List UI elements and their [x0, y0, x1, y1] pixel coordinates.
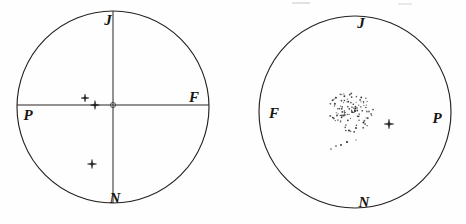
stipple-dot [356, 107, 358, 109]
stipple-dot [341, 108, 343, 110]
stipple-dot [336, 114, 338, 116]
stipple-dot [354, 110, 356, 112]
stipple-dot [335, 97, 337, 99]
right-field-circle: J P N F [259, 15, 451, 210]
stipple-dot [348, 108, 350, 110]
stipple-dot [358, 113, 360, 115]
stipple-dot [350, 118, 351, 119]
stipple-dot [347, 120, 349, 122]
stipple-dot [371, 115, 372, 116]
stipple-dot [353, 131, 355, 133]
stipple-dot [367, 125, 368, 126]
stipple-dot [360, 101, 361, 102]
stipple-dot [347, 101, 349, 103]
stipple-dot [330, 103, 332, 105]
stipple-dot [341, 116, 343, 118]
stipple-dot [366, 104, 367, 105]
stipple-dot [362, 127, 364, 129]
stipple-dot [335, 120, 336, 121]
stipple-dot [338, 113, 339, 114]
stipple-dot [341, 106, 343, 108]
stipple-dot [333, 99, 335, 101]
stipple-dot [347, 99, 349, 101]
star-marker [384, 119, 394, 129]
stipple-dot [337, 119, 339, 121]
stipple-dot [366, 117, 367, 118]
stipple-nebula-cluster [329, 92, 374, 132]
stipple-dot [372, 109, 374, 111]
stipple-dot [366, 107, 367, 108]
stipple-dot [364, 123, 366, 125]
stipple-dot [367, 117, 369, 119]
stipple-dot [348, 130, 350, 132]
stray-dot [335, 145, 337, 147]
stipple-dot [358, 120, 360, 122]
stipple-dot [341, 100, 343, 102]
stipple-dot [356, 102, 357, 103]
scan-artifacts [292, 2, 412, 5]
stipple-dot [334, 105, 336, 107]
stipple-dot [339, 93, 341, 95]
stipple-dot [345, 130, 346, 131]
stipple-dot [358, 105, 359, 106]
left-field-circle: J F N P [17, 11, 209, 206]
stipple-dot [350, 102, 352, 104]
stipple-dot [343, 93, 344, 94]
stray-dot [330, 148, 331, 149]
stipple-dot [349, 114, 350, 115]
stipple-dot [343, 102, 344, 103]
stipple-dot [360, 97, 362, 99]
stipple-dot [341, 114, 343, 116]
stipple-dot [353, 103, 355, 105]
left-label-top: J [103, 12, 112, 28]
right-label-right: P [432, 110, 442, 126]
stipple-dot [345, 124, 346, 125]
stipple-dot [361, 110, 363, 112]
stipple-dot [353, 107, 354, 108]
stipple-dot [363, 101, 364, 102]
stipple-dot [347, 114, 348, 115]
star-marker [81, 94, 89, 102]
right-star-markers [384, 119, 394, 129]
right-label-bottom: N [358, 194, 371, 210]
stipple-dot [349, 94, 351, 96]
stipple-dot [351, 109, 352, 110]
stipple-dot [359, 115, 360, 116]
stipple-dot [344, 127, 346, 129]
stipple-dot [365, 98, 367, 100]
stipple-dot [356, 96, 358, 98]
stray-dots [330, 139, 356, 149]
stipple-dot [370, 113, 372, 115]
stipple-dot [344, 100, 345, 101]
stipple-dot [340, 115, 341, 116]
stipple-dot [359, 99, 361, 101]
stipple-dot [356, 109, 358, 111]
stipple-dot [350, 92, 352, 94]
star-marker [87, 159, 96, 168]
right-label-top: J [356, 15, 365, 31]
stipple-dot [344, 112, 345, 113]
stipple-dot [355, 106, 357, 108]
stipple-dot [367, 101, 368, 102]
stipple-dot [363, 105, 364, 106]
left-label-right: F [188, 89, 199, 105]
stipple-dot [329, 115, 330, 116]
stipple-dot [340, 106, 341, 107]
stipple-dot [344, 110, 345, 111]
stipple-dot [363, 122, 365, 124]
stray-dot [340, 144, 342, 146]
stray-dot [355, 139, 356, 140]
stipple-dot [368, 110, 370, 112]
stipple-dot [347, 106, 349, 108]
right-label-left: F [268, 105, 279, 121]
stipple-dot [360, 106, 362, 108]
left-label-bottom: N [109, 190, 122, 206]
left-label-left: P [23, 107, 33, 123]
stipple-dot [343, 114, 345, 116]
stipple-dot [332, 117, 334, 119]
stipple-dot [351, 96, 353, 98]
stipple-dot [366, 111, 368, 113]
star-marker [91, 101, 100, 110]
stipple-dot [351, 111, 353, 113]
stray-dot [346, 141, 348, 143]
